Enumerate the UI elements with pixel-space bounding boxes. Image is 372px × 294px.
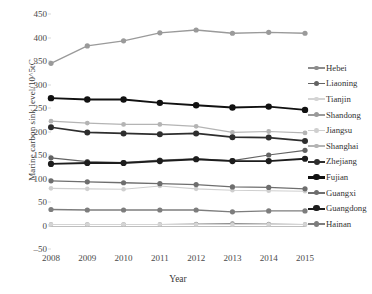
series-fujian [48, 95, 308, 113]
legend-label: Shanghai [325, 141, 358, 151]
data-point [49, 119, 54, 124]
legend-label: Hainan [325, 219, 351, 229]
data-point [157, 158, 163, 164]
legend-label: Hebei [325, 63, 347, 73]
data-point [230, 222, 235, 227]
legend-marker [314, 190, 319, 195]
series-hainan [48, 207, 307, 215]
y-tick-label: 50 [38, 197, 47, 207]
x-tick-label: 2012 [187, 253, 205, 263]
legend-swatch-icon [308, 79, 325, 88]
legend-marker [314, 128, 319, 133]
data-point [194, 222, 199, 227]
data-point [48, 155, 53, 160]
data-point [302, 31, 307, 36]
data-point [266, 103, 272, 109]
legend-swatch-icon [308, 219, 325, 228]
legend-marker [314, 112, 319, 117]
data-point [266, 222, 271, 227]
data-point [48, 61, 53, 66]
legend-label: Fujian [325, 172, 348, 182]
data-point [266, 208, 271, 213]
data-point [194, 207, 199, 212]
legend-item-zhejiang[interactable]: Zhejiang [308, 154, 372, 170]
x-tick-label: 2014 [260, 253, 278, 263]
legend-swatch-icon [308, 188, 325, 197]
data-point [48, 178, 53, 183]
data-point [194, 27, 199, 32]
data-point [121, 207, 126, 212]
data-point [48, 161, 54, 167]
legend-item-hainan[interactable]: Hainan [308, 216, 372, 232]
data-point [121, 180, 126, 185]
data-point [121, 187, 126, 192]
y-tick-label: 300 [34, 80, 48, 90]
legend-item-guangdong[interactable]: Guangdong [308, 200, 372, 216]
legend-item-hebei[interactable]: Hebei [308, 60, 372, 76]
data-point [121, 130, 127, 136]
legend-swatch-icon [308, 126, 325, 135]
series-tianjin [49, 222, 308, 227]
data-point [49, 222, 54, 227]
series-zhejiang [48, 124, 308, 144]
x-tick-label: 2009 [78, 253, 96, 263]
legend-label: Guangxi [325, 188, 356, 198]
series-shandong [48, 27, 307, 66]
legend-swatch-icon [308, 157, 325, 166]
legend-item-jiangsu[interactable]: Jiangsu [308, 122, 372, 138]
legend-swatch-icon [308, 141, 325, 150]
data-point [157, 30, 162, 35]
data-point [85, 121, 90, 126]
data-point [48, 124, 54, 130]
data-point [266, 158, 272, 164]
x-tick-label: 2011 [151, 253, 169, 263]
data-point [230, 31, 235, 36]
legend-marker [313, 174, 319, 180]
legend-item-shandong[interactable]: Shandong [308, 107, 372, 123]
y-tick-label: 250 [34, 103, 48, 113]
legend: HebeiLiaoningTianjinShandongJiangsuShang… [308, 60, 372, 232]
data-point [48, 95, 54, 101]
data-point [266, 129, 271, 134]
legend-item-guangxi[interactable]: Guangxi [308, 185, 372, 201]
data-point [193, 130, 199, 136]
y-tick-label: 200 [34, 127, 48, 137]
legend-swatch-icon [308, 94, 325, 103]
data-point [303, 131, 308, 136]
legend-item-fujian[interactable]: Fujian [308, 169, 372, 185]
data-point [85, 187, 90, 192]
data-point [229, 158, 235, 164]
data-point [193, 156, 199, 162]
x-axis-title: Year [51, 274, 305, 284]
data-point [84, 96, 90, 102]
legend-swatch-icon [308, 204, 325, 213]
y-tick-label: 150 [34, 150, 48, 160]
y-tick-label: 450 [34, 9, 48, 19]
data-point [194, 124, 199, 129]
data-point [157, 122, 162, 127]
legend-marker [314, 221, 319, 226]
data-point [158, 222, 163, 227]
legend-item-liaoning[interactable]: Liaoning [308, 76, 372, 92]
legend-marker [314, 159, 320, 165]
y-tick-label: 350 [34, 56, 48, 66]
legend-item-tianjin[interactable]: Tianjin [308, 91, 372, 107]
legend-swatch-icon [308, 63, 325, 72]
y-tick-label: 100 [34, 174, 48, 184]
data-point [49, 186, 54, 191]
legend-label: Zhejiang [325, 156, 357, 166]
legend-swatch-icon [308, 172, 325, 181]
legend-marker [313, 205, 319, 211]
data-point [266, 185, 271, 190]
data-point [120, 160, 126, 166]
x-tick-label: 2013 [223, 253, 241, 263]
data-point [84, 129, 90, 135]
legend-label: Guangdong [325, 203, 367, 213]
legend-marker [314, 66, 319, 71]
x-tick-label: 2008 [42, 253, 60, 263]
legend-item-shanghai[interactable]: Shanghai [308, 138, 372, 154]
data-point [303, 222, 308, 227]
data-point [84, 160, 90, 166]
data-point [302, 186, 307, 191]
x-tick-label: 2010 [115, 253, 133, 263]
